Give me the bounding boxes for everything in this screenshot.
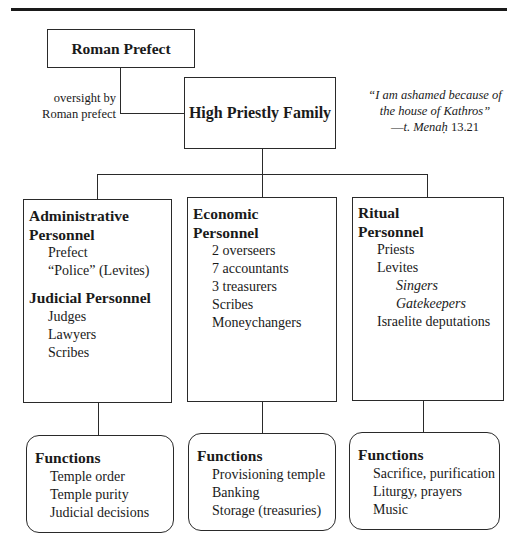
list-item: Moneychangers	[193, 314, 336, 332]
list-item: 3 treasurers	[193, 278, 336, 296]
high-priestly-family-box: High Priestly Family	[184, 77, 336, 149]
connector-hpf-down	[262, 148, 263, 198]
list-item: 7 accountants	[193, 260, 336, 278]
function-item: Liturgy, prayers	[358, 483, 499, 501]
functions-heading: Functions	[197, 447, 335, 466]
administrative-functions-box: Functions Temple order Temple purity Jud…	[26, 435, 174, 533]
ritual-functions-box: Functions Sacrifice, purification Liturg…	[349, 432, 500, 530]
cite-dash: —	[391, 120, 404, 134]
connector-prefect-horizontal	[120, 113, 186, 114]
list-sub-item: Gatekeepers	[358, 295, 503, 313]
list-item: Israelite deputations	[358, 313, 503, 331]
administrative-heading: Administrative Personnel	[29, 207, 171, 244]
function-item: Sacrifice, purification	[358, 465, 499, 483]
economic-functions-box: Functions Provisioning temple Banking St…	[188, 433, 336, 531]
oversight-label: oversight by Roman prefect	[30, 90, 116, 122]
top-rule	[11, 8, 507, 11]
ritual-personnel-box: Ritual Personnel Priests Levites Singers…	[352, 197, 504, 401]
oversight-label-line2: Roman prefect	[30, 106, 116, 122]
function-item: Temple purity	[35, 486, 173, 504]
list-item: Scribes	[29, 344, 171, 362]
roman-prefect-title: Roman Prefect	[71, 40, 170, 58]
function-item: Judicial decisions	[35, 504, 173, 522]
connector-branch-left	[97, 174, 98, 200]
connector-branch-horizontal	[97, 174, 428, 175]
high-priestly-family-title: High Priestly Family	[189, 104, 331, 122]
connector-prefect-vertical	[120, 67, 121, 114]
list-item: Lawyers	[29, 326, 171, 344]
list-item: Scribes	[193, 296, 336, 314]
economic-heading: Economic Personnel	[193, 205, 336, 242]
economic-personnel-box: Economic Personnel 2 overseers 7 account…	[187, 197, 337, 402]
function-item: Music	[358, 501, 499, 519]
connector-admin-functions	[98, 402, 99, 436]
judicial-heading: Judicial Personnel	[29, 289, 171, 308]
function-item: Provisioning temple	[197, 466, 335, 484]
list-item: 2 overseers	[193, 242, 336, 260]
list-item: Priests	[358, 241, 503, 259]
list-item: Prefect	[29, 244, 171, 262]
connector-branch-right	[427, 174, 428, 198]
quote-citation: —t. Menaḥ 13.21	[350, 119, 520, 135]
functions-heading: Functions	[358, 446, 499, 465]
quote-block: “I am ashamed because of the house of Ka…	[350, 87, 520, 135]
function-item: Temple order	[35, 468, 173, 486]
oversight-label-line1: oversight by	[30, 90, 116, 106]
cite-ref: 13.21	[448, 120, 479, 134]
roman-prefect-box: Roman Prefect	[47, 29, 195, 68]
connector-ritual-functions	[423, 400, 424, 433]
quote-line2: the house of Kathros”	[350, 103, 520, 119]
list-item: “Police” (Levites)	[29, 262, 171, 280]
cite-work: t. Menaḥ	[403, 120, 447, 134]
ritual-heading: Ritual Personnel	[358, 204, 503, 241]
list-item: Levites	[358, 259, 503, 277]
connector-economic-functions	[262, 401, 263, 434]
quote-line1: “I am ashamed because of	[350, 87, 520, 103]
functions-heading: Functions	[35, 449, 173, 468]
function-item: Banking	[197, 484, 335, 502]
list-sub-item: Singers	[358, 277, 503, 295]
administrative-personnel-box: Administrative Personnel Prefect “Police…	[23, 199, 172, 403]
list-item: Judges	[29, 308, 171, 326]
function-item: Storage (treasuries)	[197, 502, 335, 520]
